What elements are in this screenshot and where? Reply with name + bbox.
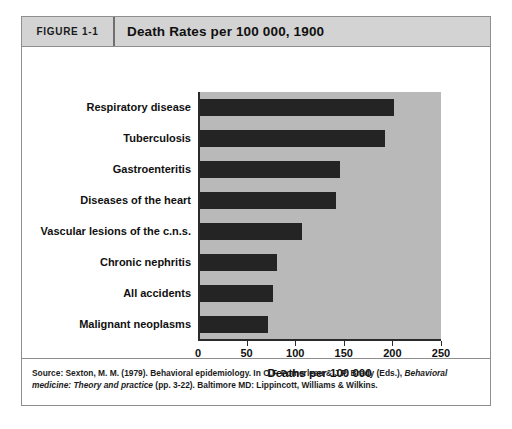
bar-row <box>200 223 441 240</box>
figure-container: FIGURE 1-1 Death Rates per 100 000, 1900… <box>21 16 491 406</box>
bar-row <box>200 285 441 302</box>
category-label: All accidents <box>22 287 198 299</box>
category-label: Diseases of the heart <box>22 194 198 206</box>
category-label: Respiratory disease <box>22 101 198 113</box>
figure-title: Death Rates per 100 000, 1900 <box>115 17 490 46</box>
bar-row <box>200 254 441 271</box>
x-axis-tick <box>247 341 248 346</box>
x-axis-tick <box>441 341 442 346</box>
category-label: Malignant neoplasms <box>22 318 198 330</box>
bar <box>200 192 336 209</box>
source-note: Source: Sexton, M. M. (1979). Behavioral… <box>22 358 490 405</box>
plot-area <box>198 92 441 340</box>
bar <box>200 285 273 302</box>
bar-row <box>200 316 441 333</box>
bar-series <box>200 92 441 340</box>
figure-number-label: FIGURE 1-1 <box>22 17 115 46</box>
y-axis-category-labels: Respiratory diseaseTuberculosisGastroent… <box>22 92 198 340</box>
source-italic-subtitle: Theory and practice <box>73 380 153 390</box>
bar <box>200 223 302 240</box>
bar <box>200 254 277 271</box>
x-axis-tick <box>295 341 296 346</box>
category-label: Gastroenteritis <box>22 163 198 175</box>
bar-row <box>200 99 441 116</box>
x-axis-tick <box>392 341 393 346</box>
bar-row <box>200 161 441 178</box>
source-suffix: (pp. 3-22). Baltimore MD: Lippincott, Wi… <box>153 380 378 390</box>
bar <box>200 99 394 116</box>
bar-row <box>200 192 441 209</box>
x-axis-tick <box>344 341 345 346</box>
bar <box>200 161 340 178</box>
category-label: Tuberculosis <box>22 132 198 144</box>
x-axis-line <box>198 339 441 341</box>
bar-row <box>200 130 441 147</box>
category-label: Vascular lesions of the c.n.s. <box>22 225 198 237</box>
source-prefix: Source: Sexton, M. M. (1979). Behavioral… <box>32 368 404 378</box>
chart-plot-region: Respiratory diseaseTuberculosisGastroent… <box>22 47 490 357</box>
figure-header: FIGURE 1-1 Death Rates per 100 000, 1900 <box>22 17 490 47</box>
category-label: Chronic nephritis <box>22 256 198 268</box>
bar <box>200 316 268 333</box>
bar <box>200 130 385 147</box>
